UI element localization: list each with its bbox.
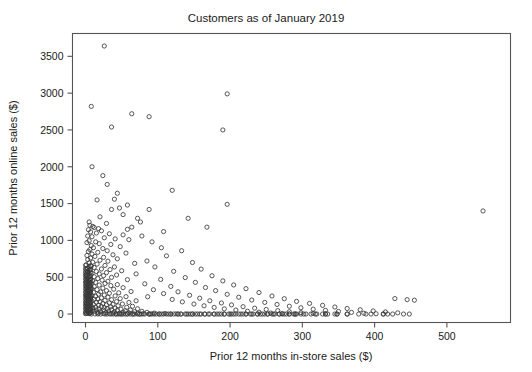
y-tick-label: 3000 xyxy=(40,87,64,99)
y-tick-label: 2000 xyxy=(40,161,64,173)
x-tick-label: 0 xyxy=(83,330,89,342)
y-tick-label: 3500 xyxy=(40,50,64,62)
scatter-plot: Customers as of January 2019 01002003004… xyxy=(0,0,532,372)
y-axis-title: Prior 12 months online sales ($) xyxy=(7,100,19,255)
x-axis-title: Prior 12 months in-store sales ($) xyxy=(210,350,373,362)
chart-figure: Customers as of January 2019 01002003004… xyxy=(0,0,532,372)
chart-title: Customers as of January 2019 xyxy=(188,12,345,24)
y-tick-label: 500 xyxy=(46,271,64,283)
y-tick-label: 1000 xyxy=(40,234,64,246)
x-tick-label: 200 xyxy=(221,330,239,342)
x-tick-label: 400 xyxy=(366,330,384,342)
x-tick-label: 100 xyxy=(149,330,167,342)
y-tick-label: 0 xyxy=(58,308,64,320)
x-tick-label: 500 xyxy=(438,330,456,342)
x-tick-label: 300 xyxy=(294,330,312,342)
y-tick-label: 2500 xyxy=(40,124,64,136)
y-tick-label: 1500 xyxy=(40,197,64,209)
